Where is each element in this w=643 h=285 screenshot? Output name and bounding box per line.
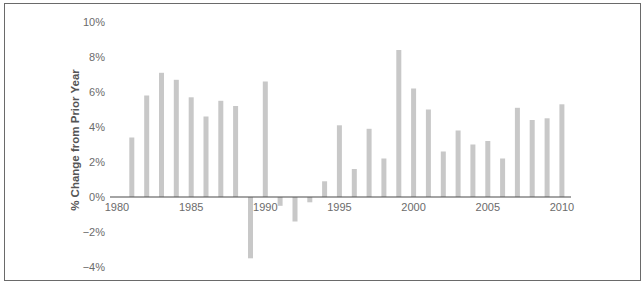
bar-1997: [367, 129, 372, 197]
bar-2002: [441, 152, 446, 198]
y-tick-label: 10%: [83, 16, 105, 28]
bar-1987: [218, 101, 223, 197]
bar-2004: [470, 145, 475, 198]
bar-2000: [411, 89, 416, 198]
bar-1990: [263, 82, 268, 198]
y-tick-label: 4%: [89, 121, 105, 133]
bar-1986: [204, 117, 209, 198]
x-tick-label: 2010: [550, 201, 574, 213]
bar-2005: [485, 141, 490, 197]
bar-1992: [293, 197, 298, 222]
bar-2009: [545, 118, 550, 197]
bar-2001: [426, 110, 431, 198]
bar-1988: [233, 106, 238, 197]
bar-1999: [396, 50, 401, 197]
x-tick-label: 1985: [179, 201, 203, 213]
bar-1983: [159, 73, 164, 197]
x-tick-label: 2005: [476, 201, 500, 213]
x-tick-label: 1990: [253, 201, 277, 213]
bar-2003: [456, 131, 461, 198]
y-tick-label: 0%: [89, 191, 105, 203]
y-axis-ticks: 10%8%6%4%2%0%−2%−4%: [83, 16, 106, 273]
x-tick-label: 1995: [327, 201, 351, 213]
y-tick-label: 6%: [89, 86, 105, 98]
bar-chart: 10%8%6%4%2%0%−2%−4% 19801985199019952000…: [0, 0, 643, 285]
x-axis-ticks: 1980198519901995200020052010: [105, 201, 574, 213]
bar-2008: [530, 120, 535, 197]
bar-1991: [278, 197, 283, 206]
bar-1984: [174, 80, 179, 197]
bars: [129, 50, 564, 258]
y-tick-label: 2%: [89, 156, 105, 168]
bar-1993: [307, 197, 312, 202]
bar-1995: [337, 125, 342, 197]
bar-2006: [500, 159, 505, 198]
bar-1994: [322, 181, 327, 197]
bar-1985: [189, 97, 194, 197]
y-tick-label: −4%: [83, 261, 106, 273]
y-tick-label: 8%: [89, 51, 105, 63]
bar-1982: [144, 96, 149, 198]
x-tick-label: 1980: [105, 201, 129, 213]
bar-2010: [559, 104, 564, 197]
x-tick-label: 2000: [401, 201, 425, 213]
y-axis-label: % Change from Prior Year: [69, 69, 81, 211]
bar-1981: [129, 138, 134, 198]
y-tick-label: −2%: [83, 226, 106, 238]
bar-2007: [515, 108, 520, 197]
bar-1998: [381, 159, 386, 198]
bar-1996: [352, 169, 357, 197]
